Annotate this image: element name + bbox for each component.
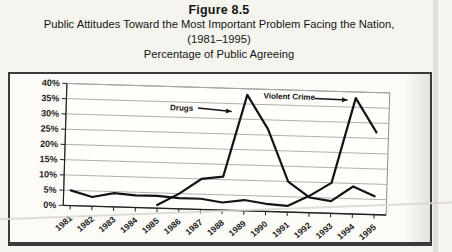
- annotation-label-violent-crime: Violent Crime: [263, 91, 315, 102]
- y-tick-label: 20%: [40, 139, 58, 150]
- x-tick-label: 1990: [248, 219, 269, 239]
- figure-title-years: (1981–1995): [0, 32, 438, 47]
- x-tick-label: 1982: [75, 214, 96, 234]
- figure-label: Figure 8.5: [0, 3, 438, 17]
- chart-frame: 0%5%10%15%20%25%30%35%40%198119821983198…: [8, 72, 432, 246]
- y-tick-label: 30%: [41, 108, 59, 119]
- x-tick-label: 1994: [335, 221, 356, 241]
- x-tick-label: 1991: [270, 219, 291, 239]
- annotation-label-drugs: Drugs: [170, 103, 194, 113]
- x-tick-label: 1987: [183, 217, 204, 237]
- x-tick-label: 1983: [96, 214, 117, 234]
- x-tick-label: 1993: [313, 221, 334, 241]
- y-tick-label: 35%: [41, 93, 59, 104]
- figure-subtitle: Percentage of Public Agreeing: [0, 47, 438, 62]
- y-tick-label: 5%: [44, 185, 57, 195]
- x-tick-label: 1995: [357, 222, 378, 242]
- x-tick-label: 1992: [292, 220, 313, 240]
- x-tick-label: 1981: [53, 213, 74, 233]
- x-tick-label: 1985: [140, 216, 161, 236]
- x-tick-label: 1988: [205, 217, 226, 237]
- y-tick-label: 10%: [39, 169, 57, 180]
- figure-heading: Figure 8.5 Public Attitudes Toward the M…: [0, 3, 438, 62]
- plot-group: 0%5%10%15%20%25%30%35%40%198119821983198…: [37, 78, 389, 243]
- y-tick-label: 15%: [39, 154, 57, 165]
- y-tick-label: 25%: [40, 123, 58, 134]
- y-tick-label: 0%: [43, 200, 56, 210]
- x-tick-label: 1989: [227, 218, 248, 238]
- figure-title: Public Attitudes Toward the Most Importa…: [0, 17, 438, 32]
- y-tick-label: 40%: [42, 78, 60, 88]
- x-tick-label: 1986: [162, 216, 183, 236]
- x-tick-label: 1984: [118, 215, 139, 235]
- line-chart: 0%5%10%15%20%25%30%35%40%198119821983198…: [10, 78, 430, 244]
